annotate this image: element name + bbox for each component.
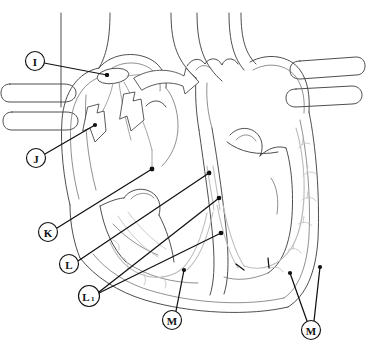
leader-line-I — [44, 63, 107, 75]
aorta-inner — [197, 13, 222, 81]
mitral-valve-chordae — [260, 147, 286, 156]
callout-M-left[interactable]: M — [163, 311, 182, 330]
left-ventricle-free-wall-inner — [284, 120, 310, 298]
left-ventricle-cavity-lower — [224, 273, 268, 279]
flow-arrow-right — [134, 68, 199, 94]
leader-dot-M-left — [182, 268, 186, 272]
right-ventricle-outer-wall — [70, 205, 80, 258]
leader-dot-J — [93, 123, 97, 127]
pulmonary-valve-cusps — [146, 101, 166, 107]
callout-J-label: J — [33, 153, 39, 165]
interventricular-septum-right — [212, 128, 228, 294]
callout-J[interactable]: J — [27, 149, 46, 168]
purkinje-twig-lv-2 — [303, 172, 316, 176]
callout-I-label: I — [33, 56, 37, 68]
great-vessels-group — [1, 13, 365, 130]
callout-L-label: L — [65, 259, 72, 271]
leader-dot-L — [207, 171, 211, 175]
right-ventricle-cavity-upper — [100, 206, 126, 262]
right-pulmonary-vein-lower — [286, 86, 362, 107]
leader-dot-I — [105, 73, 109, 77]
leader-line-M-right-a — [290, 273, 307, 321]
callout-K[interactable]: K — [39, 223, 58, 242]
heart-diagram-svg: I J K L L 1 M M — [0, 0, 366, 357]
callout-I[interactable]: I — [26, 52, 45, 71]
callout-K-label: K — [44, 227, 53, 239]
flow-arrow-down-center — [120, 92, 144, 131]
leader-dot-K — [150, 167, 154, 171]
aortic-valve-cusps — [187, 59, 238, 66]
left-pulmonary-vein-upper — [1, 84, 76, 102]
interatrial-septum — [196, 78, 199, 130]
purkinje-twig-rv-4 — [113, 240, 119, 250]
aorta-outer — [171, 13, 196, 78]
mitral-valve-posterior-leaflet — [236, 135, 256, 141]
callout-L1[interactable]: L 1 — [79, 286, 100, 307]
purkinje-fiber-lv-main — [244, 128, 304, 268]
heart-outline-group — [61, 54, 318, 312]
cardiac-conduction-diagram: I J K L L 1 M M — [0, 0, 366, 357]
purkinje-twig-lv-5b — [293, 242, 294, 249]
purkinje-twig-rv-1 — [162, 276, 166, 288]
leader-line-L1-b — [99, 233, 221, 293]
left-bundle-branch — [217, 205, 238, 268]
leader-line-M-left — [176, 270, 184, 311]
leader-dot-L1-b — [219, 231, 223, 235]
callout-M-left-label: M — [167, 315, 178, 327]
tricuspid-valve-leaflet-detail — [131, 193, 154, 199]
purkinje-twig-lv-3b — [307, 191, 308, 198]
leader-line-K — [57, 169, 152, 228]
callout-L1-label: L — [82, 291, 89, 303]
interatrial-septum-inner — [207, 83, 212, 128]
leader-dot-M-right-a — [288, 271, 292, 275]
right-atrial-appendage — [162, 88, 178, 166]
callout-L1-subscript: 1 — [91, 295, 95, 303]
pulmonary-artery-right — [241, 13, 256, 64]
left-ventricle-trabecula — [271, 178, 278, 214]
callout-L[interactable]: L — [60, 255, 79, 274]
leader-line-M-right-b — [314, 267, 320, 321]
left-pulmonary-vein-lower — [3, 112, 78, 130]
left-ventricle-cavity — [268, 148, 293, 273]
right-pulmonary-vein-upper — [290, 57, 365, 79]
callout-M-right-label: M — [306, 325, 317, 337]
callout-M-right[interactable]: M — [302, 321, 321, 340]
leader-dot-M-right-b — [318, 265, 322, 269]
left-atrium-floor — [227, 142, 278, 154]
leader-dot-L1-a — [217, 196, 221, 200]
purkinje-twig-rv-2 — [143, 272, 145, 285]
left-bundle-branch-2 — [223, 205, 244, 266]
